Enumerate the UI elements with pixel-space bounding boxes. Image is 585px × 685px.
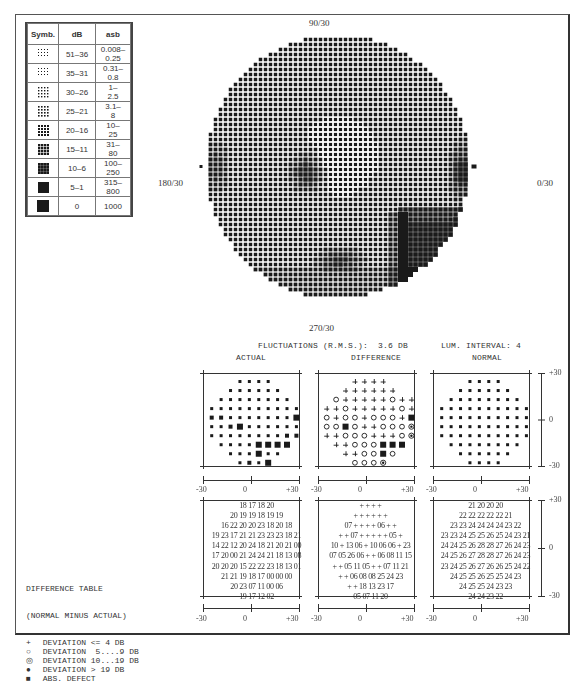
legend-symbol-cell bbox=[28, 197, 59, 216]
table-row: + + 07 + + + + + 05 + bbox=[318, 531, 423, 541]
x-tick-label: -30 bbox=[426, 614, 437, 623]
actual-db-table: 18 17 18 2020 19 19 18 19 1916 22 20 20 … bbox=[204, 501, 309, 602]
legend-asb-cell: 0.008– 0.25 bbox=[96, 45, 131, 64]
legend-asb-cell: 100– 250 bbox=[96, 159, 131, 178]
x-tick-label: 0 bbox=[358, 485, 362, 494]
x-tick-label: 0 bbox=[358, 614, 362, 623]
legend-row: 25–213.1– 8 bbox=[28, 102, 131, 121]
legend-db-cell: 51–36 bbox=[59, 45, 96, 64]
greyscale-pattern-icon bbox=[37, 48, 49, 60]
difference-title: DIFFERENCE bbox=[351, 353, 401, 362]
actual-title: ACTUAL bbox=[236, 353, 266, 362]
x-tick-label: 0 bbox=[473, 485, 477, 494]
table-row: 10 + 13 06 + 10 06 06 + 23 bbox=[318, 541, 423, 551]
x-tick-label: +30 bbox=[401, 485, 414, 494]
legend-db-cell: 10–6 bbox=[59, 159, 96, 178]
difference-legend-label: ABS. DEFECT bbox=[38, 674, 96, 683]
label-270-30: 270/30 bbox=[309, 323, 334, 333]
legend-header-asb: asb bbox=[96, 24, 131, 45]
legend-symbol-cell bbox=[28, 178, 59, 197]
greyscale-pattern-icon bbox=[37, 162, 49, 174]
difference-legend-item: ◎ DEVIATION 10...19 DB bbox=[26, 656, 139, 665]
lum-interval-text: LUM. INTERVAL: 4 bbox=[441, 341, 521, 350]
table-row: + + + + + + bbox=[318, 511, 423, 521]
table-row: 07 + + + + 06 + + bbox=[318, 521, 423, 531]
circle-icon: ○ bbox=[26, 647, 38, 656]
legend-db-cell: 35–31 bbox=[59, 64, 96, 83]
greyscale-pattern-icon bbox=[37, 105, 49, 117]
table-row: 19 23 17 21 21 23 23 23 18 21 bbox=[204, 531, 309, 541]
y-tick-label: -30 bbox=[549, 591, 560, 600]
legend-asb-cell: 1000 bbox=[96, 197, 131, 216]
greyscale-pattern-icon bbox=[37, 86, 49, 98]
difference-legend-label: DEVIATION 10...19 DB bbox=[38, 656, 139, 665]
legend-db-cell: 5–1 bbox=[59, 178, 96, 197]
filled-circle-icon: ● bbox=[26, 665, 38, 674]
legend-row: 15–1131– 80 bbox=[28, 140, 131, 159]
normal-title: NORMAL bbox=[472, 353, 502, 362]
difference-symbol-plot bbox=[315, 368, 425, 493]
legend-row: 10–6100– 250 bbox=[28, 159, 131, 178]
table-row: 24 24 23 22 bbox=[433, 592, 538, 602]
label-0-30: 0/30 bbox=[537, 178, 553, 188]
legend-asb-cell: 3.1– 8 bbox=[96, 102, 131, 121]
difference-legend-item: + DEVIATION <= 4 DB bbox=[26, 638, 139, 647]
table-row: 20 19 19 18 19 19 bbox=[204, 511, 309, 521]
legend-db-cell: 0 bbox=[59, 197, 96, 216]
y-tick-label: 0 bbox=[549, 415, 553, 424]
x-tick-label: +30 bbox=[401, 614, 414, 623]
table-row: + + 18 13 23 17 bbox=[318, 582, 423, 592]
legend-symbol-cell bbox=[28, 140, 59, 159]
legend-row: 20–1610– 25 bbox=[28, 121, 131, 140]
x-tick-label: 0 bbox=[473, 614, 477, 623]
table-row: 24 24 25 26 28 28 27 26 24 23 bbox=[433, 541, 538, 551]
table-row: 22 22 22 22 22 21 bbox=[433, 511, 538, 521]
legend-asb-cell: 1– 2.5 bbox=[96, 83, 131, 102]
table-row: 18 17 18 20 bbox=[204, 501, 309, 511]
difference-legend-item: ■ ABS. DEFECT bbox=[26, 674, 139, 683]
table-row: 07 05 26 06 + + 06 08 11 15 bbox=[318, 551, 423, 561]
legend-db-cell: 25–21 bbox=[59, 102, 96, 121]
greyscale-pattern-icon bbox=[37, 200, 49, 212]
legend-row: 01000 bbox=[28, 197, 131, 216]
x-tick-label: +30 bbox=[286, 614, 299, 623]
difference-legend-item: ● DEVIATION > 19 DB bbox=[26, 665, 139, 674]
table-row: 21 20 20 20 bbox=[433, 501, 538, 511]
difference-db-table: + + + ++ + + + + +07 + + + + 06 + ++ + 0… bbox=[318, 501, 423, 602]
greyscale-pattern-icon bbox=[37, 124, 49, 136]
legend-symbol-cell bbox=[28, 83, 59, 102]
greyscale-visual-field-map bbox=[195, 32, 480, 297]
legend-header-symbol: Symb. bbox=[28, 24, 59, 45]
x-tick-label: -30 bbox=[426, 485, 437, 494]
table-row: 23 24 25 26 27 26 26 25 24 22 bbox=[433, 562, 538, 572]
legend-row: 30–261– 2.5 bbox=[28, 83, 131, 102]
greyscale-pattern-icon bbox=[37, 143, 49, 155]
table-row: 19 17 12 02 bbox=[204, 592, 309, 602]
plus-icon: + bbox=[26, 638, 38, 647]
difference-legend-title: DIFFERENCE TABLE bbox=[26, 584, 139, 593]
legend-row: 51–360.008– 0.25 bbox=[28, 45, 131, 64]
legend-db-cell: 15–11 bbox=[59, 140, 96, 159]
table-row: + + + + bbox=[318, 501, 423, 511]
x-tick-label: +30 bbox=[516, 614, 529, 623]
legend-db-cell: 30–26 bbox=[59, 83, 96, 102]
table-row: 14 22 12 20 24 18 21 20 21 00 bbox=[204, 541, 309, 551]
difference-legend-label: DEVIATION > 19 DB bbox=[38, 665, 124, 674]
table-row: 24 25 25 26 25 25 24 23 bbox=[433, 572, 538, 582]
table-row: 21 21 19 18 17 00 00 00 bbox=[204, 572, 309, 582]
x-tick-label: -30 bbox=[311, 485, 322, 494]
legend-asb-cell: 315– 800 bbox=[96, 178, 131, 197]
legend-symbol-cell bbox=[28, 159, 59, 178]
fluctuations-text: FLUCTUATIONS (R.M.S.): 3.6 DB bbox=[258, 341, 408, 350]
legend-row: 5–1315– 800 bbox=[28, 178, 131, 197]
x-tick-label: +30 bbox=[286, 485, 299, 494]
greyscale-pattern-icon bbox=[37, 181, 49, 193]
normal-symbol-plot bbox=[430, 368, 570, 493]
legend-row: 35–310.31– 0.8 bbox=[28, 64, 131, 83]
difference-legend-subtitle: (NORMAL MINUS ACTUAL) bbox=[26, 611, 139, 620]
table-row: 16 22 20 20 23 18 20 18 bbox=[204, 521, 309, 531]
legend-header-row: Symb. dB asb bbox=[28, 24, 131, 45]
table-row: 20 20 20 15 22 22 23 18 13 01 bbox=[204, 562, 309, 572]
legend-symbol-cell bbox=[28, 102, 59, 121]
label-90-30: 90/30 bbox=[309, 18, 330, 28]
